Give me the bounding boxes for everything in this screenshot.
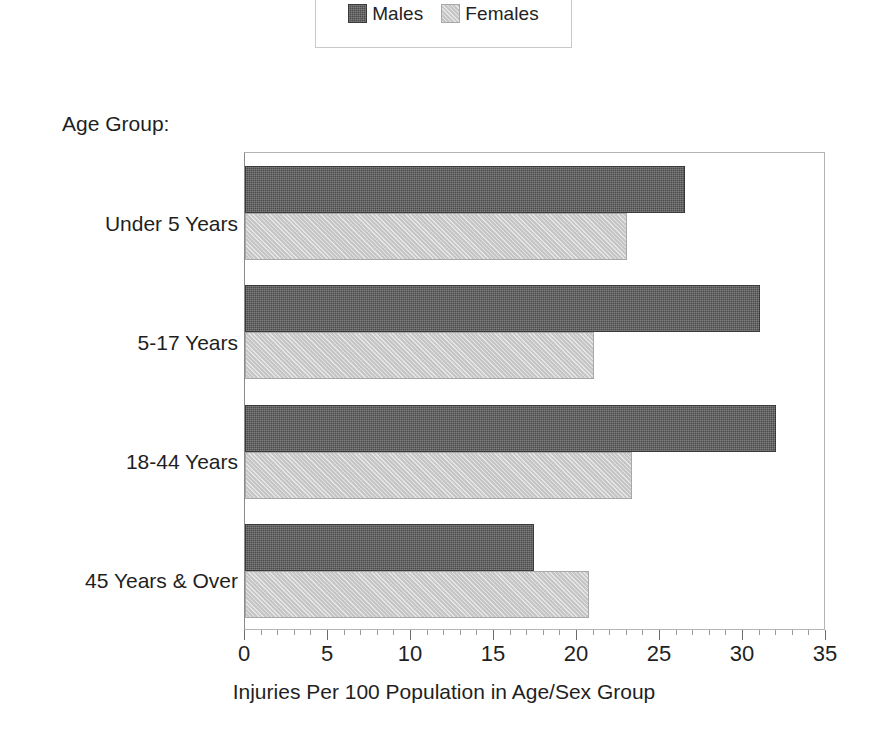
bars-container: [245, 153, 824, 629]
x-tick-major: [493, 630, 494, 640]
x-tick-label-0: 0: [238, 641, 250, 667]
bar-females-2: [245, 452, 632, 499]
x-tick-minor: [510, 630, 511, 635]
x-tick-label-25: 25: [647, 641, 671, 667]
bar-males-3: [245, 524, 534, 571]
x-tick-minor: [543, 630, 544, 635]
legend-entry-females: Females: [441, 4, 539, 23]
x-tick-label-20: 20: [564, 641, 588, 667]
x-tick-minor: [775, 630, 776, 635]
x-tick-minor: [476, 630, 477, 635]
bar-females-3: [245, 571, 589, 618]
legend-label-females: Females: [465, 4, 539, 23]
x-tick-minor: [593, 630, 594, 635]
x-tick-minor: [277, 630, 278, 635]
x-tick-minor: [759, 630, 760, 635]
x-tick-minor: [377, 630, 378, 635]
category-label-0: Under 5 Years: [105, 212, 238, 236]
x-tick-minor: [792, 630, 793, 635]
x-tick-minor: [460, 630, 461, 635]
x-tick-major: [244, 630, 245, 640]
bar-females-1: [245, 332, 594, 379]
bar-males-1: [245, 285, 760, 332]
legend-label-males: Males: [372, 4, 423, 23]
x-tick-minor: [676, 630, 677, 635]
x-tick-major: [659, 630, 660, 640]
x-tick-minor: [692, 630, 693, 635]
category-label-group: Under 5 Years 5-17 Years 18-44 Years 45 …: [0, 152, 238, 630]
category-label-1: 5-17 Years: [138, 331, 238, 355]
x-tick-major: [742, 630, 743, 640]
legend-swatch-females-icon: [441, 4, 460, 23]
bar-females-0: [245, 213, 627, 260]
chart-legend: Males Females: [315, 0, 572, 48]
x-tick-label-5: 5: [321, 641, 333, 667]
x-axis-tick-labels: 05101520253035: [244, 641, 825, 671]
x-tick-minor: [360, 630, 361, 635]
x-tick-minor: [725, 630, 726, 635]
category-label-3: 45 Years & Over: [85, 569, 238, 593]
x-tick-minor: [294, 630, 295, 635]
x-tick-minor: [344, 630, 345, 635]
y-axis-title: Age Group:: [62, 112, 169, 136]
bar-males-0: [245, 166, 685, 213]
x-tick-label-35: 35: [813, 641, 837, 667]
x-tick-major: [576, 630, 577, 640]
x-tick-major: [825, 630, 826, 640]
x-tick-minor: [526, 630, 527, 635]
x-axis-title: Injuries Per 100 Population in Age/Sex G…: [0, 680, 888, 704]
x-tick-minor: [559, 630, 560, 635]
x-tick-minor: [443, 630, 444, 635]
x-tick-minor: [626, 630, 627, 635]
x-tick-minor: [609, 630, 610, 635]
x-tick-minor: [709, 630, 710, 635]
x-tick-minor: [808, 630, 809, 635]
legend-swatch-males-icon: [348, 4, 367, 23]
x-tick-minor: [427, 630, 428, 635]
bar-males-2: [245, 405, 776, 452]
x-tick-major: [410, 630, 411, 640]
x-tick-minor: [642, 630, 643, 635]
x-tick-minor: [261, 630, 262, 635]
category-label-2: 18-44 Years: [126, 450, 238, 474]
plot-area: [244, 152, 825, 630]
legend-entry-males: Males: [348, 4, 423, 23]
x-tick-minor: [393, 630, 394, 635]
x-tick-major: [327, 630, 328, 640]
x-tick-label-15: 15: [481, 641, 505, 667]
x-tick-label-30: 30: [730, 641, 754, 667]
x-tick-label-10: 10: [398, 641, 422, 667]
x-tick-minor: [310, 630, 311, 635]
